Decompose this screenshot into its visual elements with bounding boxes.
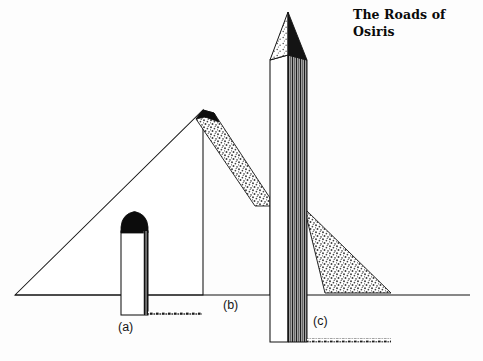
figure-label-a: (a): [118, 320, 133, 334]
obelisk-lit-face: [270, 55, 288, 342]
figure-title-line-1: The Roads of: [353, 6, 471, 23]
pyramid-shadow-band: [196, 110, 270, 206]
obelisk-pyramidion-lit: [270, 12, 288, 60]
figure-label-b: (b): [223, 298, 238, 312]
figure-title-line-2: Osiris: [353, 23, 471, 40]
figure-title: The Roads of Osiris: [353, 6, 471, 41]
monuments-line-drawing: [0, 0, 483, 361]
obelisk-shaded-face: [288, 55, 307, 342]
illustration-canvas: The Roads of Osiris (a) (b) (c): [0, 0, 483, 361]
obelisk-cast-shadow: [305, 211, 391, 293]
figure-label-c: (c): [313, 314, 328, 328]
obelisk-pyramidion-shaded: [288, 12, 307, 60]
obelisk-ground-shadow: [307, 339, 391, 343]
pyramid-lit-face: [15, 110, 203, 295]
column-ground-shadow: [148, 312, 202, 316]
column-shaded-edge: [144, 231, 148, 315]
